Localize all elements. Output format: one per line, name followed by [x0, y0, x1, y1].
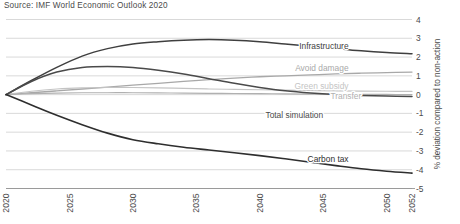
y-tick-label: 4: [416, 15, 421, 25]
figure-root: Source: IMF World Economic Outlook 2020 …: [0, 0, 460, 224]
series-line-carbon-tax: [6, 95, 412, 173]
y-tick-label: -3: [416, 146, 424, 156]
y-tick-label: -4: [416, 165, 424, 175]
series-label-total-simulation: Total simulation: [265, 110, 323, 120]
x-tick-label: 2025: [65, 193, 75, 212]
x-tick-label: 2052: [407, 193, 417, 212]
y-tick-label: 0: [416, 90, 421, 100]
x-tick-label: 2020: [1, 193, 11, 212]
line-chart: 43210-1-2-3-4-5 202020252030203520402045…: [0, 0, 460, 224]
y-tick-label: -2: [416, 127, 424, 137]
y-tick-label: -1: [416, 108, 424, 118]
gridlines: [6, 20, 412, 189]
series-label-transfer: Transfer: [330, 91, 361, 101]
y-axis-ticks: 43210-1-2-3-4-5: [416, 15, 424, 194]
series-label-carbon-tax: Carbon tax: [308, 154, 350, 164]
x-tick-label: 2050: [382, 193, 392, 212]
x-tick-label: 2040: [255, 193, 265, 212]
y-tick-label: 2: [416, 52, 421, 62]
series-label-avoid-damage: Avoid damage: [295, 63, 349, 73]
series-label-infrastructure: Infrastructure: [299, 41, 349, 51]
y-axis-title-text: % deviation compared to non-action: [433, 38, 442, 169]
x-tick-label: 2030: [128, 193, 138, 212]
y-tick-label: 3: [416, 33, 421, 43]
series-labels: InfrastructureInfrastructureAvoid damage…: [265, 41, 361, 165]
plot-area: 43210-1-2-3-4-5 202020252030203520402045…: [0, 0, 460, 224]
x-tick-label: 2035: [191, 193, 201, 212]
series-lines: [6, 40, 412, 174]
series-line-infrastructure: [6, 40, 412, 95]
x-tick-label: 2045: [318, 193, 328, 212]
x-axis-ticks: 20202025203020352040204520502052: [1, 193, 417, 212]
y-tick-label: -5: [416, 184, 424, 194]
series-label-green-subsidy: Green subsidy: [295, 81, 350, 91]
y-axis-title: % deviation compared to non-action: [433, 38, 442, 169]
y-tick-label: 1: [416, 71, 421, 81]
